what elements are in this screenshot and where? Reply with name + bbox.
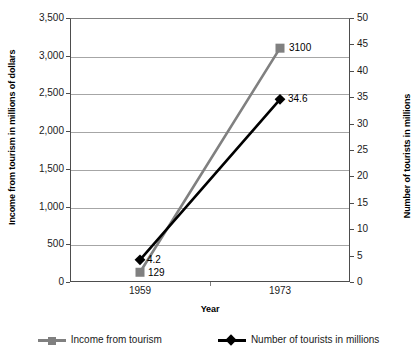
tourists-data-label-1959: 4.2 [147, 255, 161, 265]
left-tick-label: 500 [18, 239, 64, 249]
right-tick-label: 40 [357, 66, 397, 76]
x-tick-label-1973: 1973 [245, 286, 315, 296]
legend-diamond-marker-icon [218, 335, 246, 346]
left-tick-label: 3,000 [18, 51, 64, 61]
series-layer [70, 18, 350, 282]
right-axis-title: Number of tourists in millions [402, 86, 412, 226]
x-tick-label-1959: 1959 [105, 286, 175, 296]
right-tick-label: 50 [357, 13, 397, 23]
right-tick-label: 0 [357, 277, 397, 287]
income-series-line [140, 48, 280, 272]
right-tick-label: 30 [357, 119, 397, 129]
left-tick-label: 1,500 [18, 164, 64, 174]
income-marker-1973 [276, 44, 285, 53]
legend-square-marker-icon [38, 335, 66, 346]
right-tick-label: 35 [357, 92, 397, 102]
chart-legend: Income from tourism Number of tourists i… [0, 330, 417, 350]
tourists-data-label-1973: 34.6 [288, 94, 307, 104]
income-marker-1959 [136, 268, 145, 277]
income-data-label-1959: 129 [148, 268, 165, 278]
right-tick-label: 20 [357, 171, 397, 181]
legend-label-tourists: Number of tourists in millions [251, 335, 379, 345]
left-tick-label: 2,000 [18, 126, 64, 136]
x-axis-center-tick [210, 282, 211, 286]
left-axis-title: Income from tourism in millions of dolla… [7, 85, 17, 225]
legend-label-income: Income from tourism [71, 335, 162, 345]
left-tick-label: 3,500 [18, 13, 64, 23]
income-data-label-1973: 3100 [289, 43, 311, 53]
right-tick-label: 45 [357, 39, 397, 49]
left-tick-label: 2,500 [18, 88, 64, 98]
dual-axis-line-chart: Income from tourism in millions of dolla… [0, 0, 417, 354]
right-tick-label: 10 [357, 224, 397, 234]
right-tick-label: 5 [357, 251, 397, 261]
tourists-series-line [140, 99, 280, 260]
right-tick-label: 25 [357, 145, 397, 155]
left-tick-label: 0 [18, 277, 64, 287]
right-tick-label: 15 [357, 198, 397, 208]
left-tick-label: 1,000 [18, 202, 64, 212]
legend-item-tourists: Number of tourists in millions [218, 335, 379, 346]
legend-item-income: Income from tourism [38, 335, 162, 346]
x-axis-title: Year [70, 304, 350, 314]
